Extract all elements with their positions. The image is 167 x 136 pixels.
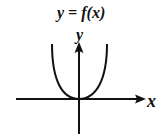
graph xyxy=(0,0,167,136)
